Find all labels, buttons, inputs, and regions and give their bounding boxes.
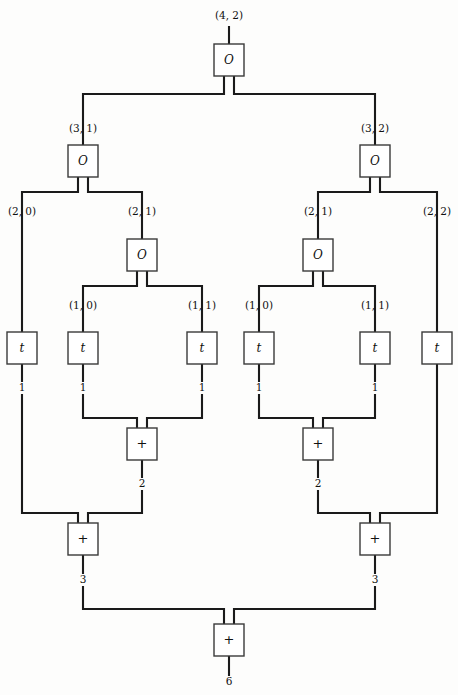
wire-value-label: 2 [139,477,146,489]
node-index-label: (1, 0) [69,299,97,311]
node-operator-label: O [224,53,234,67]
node-operator-label: + [78,531,89,546]
wire-value-label: 1 [199,381,206,393]
wire-value-label: 1 [256,381,263,393]
node-operator-label: t [435,341,440,355]
diagram-canvas: OOOOOtttttt+++++ (4, 2)(3, 1)(3, 2)(2, 0… [0,0,458,695]
node-t-box[interactable]: t [187,332,217,364]
node-operator-label: t [373,341,378,355]
node-index-label: (2, 2) [423,205,451,217]
connector-wire [88,490,142,523]
node-o-box[interactable]: O [68,145,98,177]
wire-value-label: 3 [372,573,379,585]
node-operator-label: O [137,248,147,262]
node-o-box[interactable]: O [360,145,390,177]
node-index-label: (1, 1) [361,299,389,311]
node-t-box[interactable]: t [422,332,452,364]
node-index-label: (2, 1) [304,205,332,217]
node-operator-label: t [257,341,262,355]
connector-wire [259,394,313,428]
node-operator-label: O [370,154,380,168]
node-plus-box[interactable]: + [214,624,244,656]
wire-value-label: 1 [80,381,87,393]
wire-value-label: 2 [315,477,322,489]
connector-wire [83,394,137,428]
connector-wire [234,76,375,139]
connector-wire [22,394,78,523]
node-plus-box[interactable]: + [303,428,333,460]
connector-wire [318,490,370,523]
node-t-box[interactable]: t [244,332,274,364]
node-o-box[interactable]: O [127,239,157,271]
node-operator-label: O [313,248,323,262]
connector-wire [147,394,202,428]
node-index-label: (1, 0) [245,299,273,311]
connector-wire [380,364,437,523]
connector-wire [83,76,224,139]
node-index-label: (3, 2) [361,122,389,134]
wire-value-label: 1 [372,381,379,393]
wire-value-label: 1 [19,381,26,393]
node-operator-label: t [81,341,86,355]
node-operator-label: t [20,341,25,355]
wire-value-label: 3 [80,573,87,585]
node-o-box[interactable]: O [214,44,244,76]
node-operator-label: t [200,341,205,355]
node-index-label: (3, 1) [69,122,97,134]
wire-value-label: 6 [226,675,233,687]
node-operator-label: + [224,632,235,647]
connector-wire [234,586,375,624]
node-operator-label: + [137,436,148,451]
node-t-box[interactable]: t [360,332,390,364]
node-operator-label: + [313,436,324,451]
node-plus-box[interactable]: + [360,523,390,555]
node-index-label: (2, 0) [8,205,36,217]
node-plus-box[interactable]: + [127,428,157,460]
node-plus-box[interactable]: + [68,523,98,555]
connector-wire [323,394,375,428]
node-index-label: (1, 1) [188,299,216,311]
node-layer: OOOOOtttttt+++++ [7,44,452,656]
node-o-box[interactable]: O [303,239,333,271]
node-t-box[interactable]: t [7,332,37,364]
connector-wire [83,586,224,624]
node-index-label: (2, 1) [128,205,156,217]
expression-tree-diagram: OOOOOtttttt+++++ (4, 2)(3, 1)(3, 2)(2, 0… [0,0,458,695]
node-operator-label: + [370,531,381,546]
node-t-box[interactable]: t [68,332,98,364]
node-index-label: (4, 2) [215,9,243,21]
node-operator-label: O [78,154,88,168]
